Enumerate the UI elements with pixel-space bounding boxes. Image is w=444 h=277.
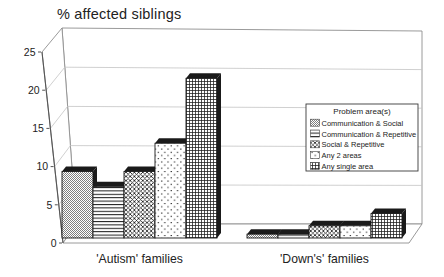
- bar-0-1: [93, 187, 124, 238]
- bar-top-face: [278, 229, 313, 234]
- legend-swatch: [311, 130, 320, 137]
- bar-0-0: [62, 172, 93, 238]
- legend-entry-label: Social & Repetitive: [322, 140, 385, 149]
- bar-side-face: [217, 73, 221, 238]
- bar-1-3: [340, 226, 371, 238]
- category-label: 'Down's' families: [280, 252, 369, 266]
- bar-1-1: [278, 234, 309, 238]
- bar-side-face: [402, 209, 406, 238]
- legend-swatch: [311, 119, 320, 126]
- y-tick-label: 0: [51, 237, 57, 249]
- legend-entry-label: Any single area: [322, 162, 375, 171]
- legend-title: Problem area(s): [333, 107, 391, 116]
- bar-top-face: [186, 73, 221, 78]
- bar-top-face: [309, 221, 344, 226]
- bar-top-face: [340, 221, 375, 226]
- bar-1-4: [371, 214, 402, 238]
- bar-top-face: [62, 167, 97, 172]
- bar-chart-3d: 0510152025'Autism' families'Down's' fami…: [0, 0, 444, 277]
- y-tick-label: 25: [24, 46, 36, 58]
- legend-entry-label: Any 2 areas: [322, 151, 362, 160]
- bar-top-face: [155, 138, 190, 143]
- bar-0-2: [124, 172, 155, 238]
- legend-swatch: [311, 141, 320, 148]
- y-tick-label: 15: [32, 122, 44, 134]
- category-label: 'Autism' families: [96, 252, 183, 266]
- bar-0-3: [155, 143, 186, 238]
- legend-swatch: [311, 162, 320, 169]
- y-tick-label: 5: [46, 199, 52, 211]
- bar-1-2: [309, 226, 340, 238]
- bar-0-4: [186, 78, 217, 238]
- legend-entry-label: Communication & Repetitive: [322, 130, 417, 139]
- figure: % affected siblings 0510152025'Autism' f…: [0, 0, 444, 277]
- bar-top-face: [93, 182, 128, 187]
- y-tick-label: 20: [28, 84, 40, 96]
- legend-entry-label: Communication & Social: [322, 119, 404, 128]
- y-tick-label: 10: [36, 160, 48, 172]
- bar-top-face: [124, 167, 159, 172]
- bar-1-0: [247, 234, 278, 238]
- bar-top-face: [371, 209, 406, 214]
- bar-top-face: [247, 229, 282, 234]
- legend-swatch: [311, 152, 320, 159]
